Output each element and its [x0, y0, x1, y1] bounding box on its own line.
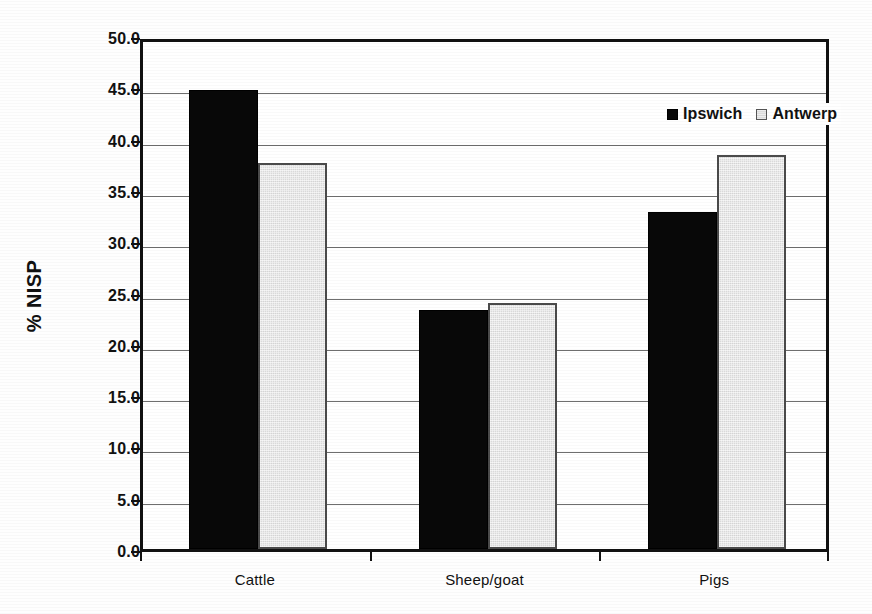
bar-cattle-ipswich	[189, 90, 258, 549]
bar-pigs-ipswich	[648, 212, 717, 549]
x-axis-category-label: Sheep/goat	[445, 571, 524, 588]
y-axis-tick-mark	[131, 192, 140, 194]
x-axis-category-label: Pigs	[699, 571, 729, 588]
y-axis-tick-mark	[131, 243, 140, 245]
bar-chart-figure: % NISP 0.05.010.015.020.025.030.035.040.…	[0, 0, 872, 614]
y-axis-tick-mark	[131, 89, 140, 91]
y-axis-tick-mark	[131, 346, 140, 348]
bar-sheep-goat-antwerp	[488, 303, 557, 549]
x-axis-tick-mark	[827, 552, 829, 561]
plot-area: IpswichAntwerp	[140, 39, 829, 552]
legend-entry-ipswich: Ipswich	[667, 105, 742, 123]
bar-cattle-antwerp	[258, 163, 327, 549]
legend-entry-antwerp: Antwerp	[756, 105, 837, 123]
y-axis: % NISP 0.05.010.015.020.025.030.035.040.…	[0, 0, 140, 614]
legend-swatch-icon	[667, 109, 678, 120]
y-axis-title: % NISP	[23, 260, 46, 332]
legend-swatch-icon	[756, 109, 767, 120]
y-axis-tick-mark	[131, 551, 140, 553]
y-axis-tick-mark	[131, 500, 140, 502]
x-axis-tick-mark	[140, 552, 142, 561]
chart-legend: IpswichAntwerp	[663, 103, 841, 125]
y-axis-tick-mark	[131, 448, 140, 450]
x-axis-tick-mark	[599, 552, 601, 561]
y-axis-tick-mark	[131, 38, 140, 40]
y-axis-tick-mark	[131, 295, 140, 297]
legend-label: Antwerp	[772, 105, 837, 123]
y-axis-tick-mark	[131, 141, 140, 143]
bar-pigs-antwerp	[717, 155, 786, 549]
bar-sheep-goat-ipswich	[419, 310, 488, 549]
x-axis: CattleSheep/goatPigs	[140, 552, 829, 614]
y-axis-tick-mark	[131, 397, 140, 399]
legend-label: Ipswich	[683, 105, 742, 123]
x-axis-category-label: Cattle	[235, 571, 275, 588]
x-axis-tick-mark	[370, 552, 372, 561]
